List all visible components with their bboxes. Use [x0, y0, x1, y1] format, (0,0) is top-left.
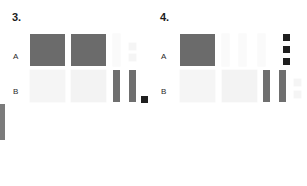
row-label-b: B	[13, 87, 18, 96]
thin-bar	[279, 70, 286, 102]
thin-bar	[222, 34, 229, 66]
panel-number-label: 4.	[160, 11, 169, 23]
small-tile	[129, 43, 136, 50]
thin-bar	[239, 34, 246, 66]
thin-bar	[113, 34, 120, 66]
large-tile	[222, 70, 257, 102]
large-tile	[30, 70, 65, 102]
large-tile	[71, 34, 106, 66]
large-tile	[71, 70, 106, 102]
left-edge-bar	[0, 104, 5, 140]
dot-tile	[283, 46, 290, 53]
row-label-a: A	[161, 52, 166, 61]
thin-bar	[113, 70, 120, 102]
large-tile	[180, 34, 215, 66]
thin-bar	[263, 70, 270, 102]
panel-number-label: 3.	[12, 11, 21, 23]
small-tile	[294, 79, 301, 86]
small-tile	[129, 54, 136, 61]
dot-tile	[283, 58, 290, 65]
dot-tile	[141, 96, 148, 103]
thin-bar	[129, 70, 136, 102]
thin-bar	[258, 34, 265, 66]
large-tile	[180, 70, 215, 102]
dot-tile	[283, 34, 290, 41]
large-tile	[30, 34, 65, 66]
row-label-a: A	[13, 52, 18, 61]
figure-canvas: 3.AB4.AB	[0, 0, 307, 186]
small-tile	[294, 91, 301, 98]
row-label-b: B	[161, 87, 166, 96]
